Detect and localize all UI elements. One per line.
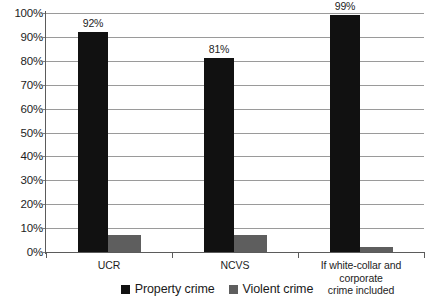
x-axis-tick-mark <box>172 252 173 258</box>
bar-value-label: 92% <box>68 18 118 29</box>
chart-legend: Property crimeViolent crime <box>0 282 434 296</box>
legend-swatch-icon <box>121 285 130 294</box>
x-axis-tick-mark <box>298 252 299 258</box>
y-axis-labels: 100%90%80%70%60%50%40%30%20%10%0% <box>0 0 43 305</box>
bar-violent-crime <box>360 247 393 252</box>
y-axis-tick-label: 0% <box>1 246 43 258</box>
legend-swatch-icon <box>229 285 238 294</box>
legend-item: Violent crime <box>229 282 314 296</box>
bar-violent-crime <box>108 235 141 252</box>
y-axis-tick-label: 60% <box>1 103 43 115</box>
x-axis-category-line: UCR <box>46 259 172 272</box>
y-axis-tick-label: 50% <box>1 127 43 139</box>
y-axis-tick-label: 30% <box>1 174 43 186</box>
bar-violent-crime <box>234 235 267 252</box>
bar-property-crime <box>78 32 108 252</box>
x-axis-line <box>45 252 425 253</box>
gridline <box>46 13 424 14</box>
x-axis-category-line: If white-collar and corporate <box>298 259 424 284</box>
bar-property-crime <box>204 58 234 252</box>
y-axis-tick-label: 10% <box>1 222 43 234</box>
x-axis-category-label: UCR <box>46 259 172 272</box>
bar-value-label: 99% <box>320 1 370 12</box>
x-axis-tick-mark <box>46 252 47 258</box>
legend-item-label: Violent crime <box>243 282 314 296</box>
bar-property-crime <box>330 15 360 252</box>
y-axis-tick-label: 100% <box>1 7 43 19</box>
plot-area: 92%81%99% <box>46 13 424 252</box>
bar-chart: 100%90%80%70%60%50%40%30%20%10%0% 92%81%… <box>0 0 434 305</box>
legend-item-label: Property crime <box>135 282 215 296</box>
legend-item: Property crime <box>121 282 215 296</box>
y-axis-tick-label: 70% <box>1 79 43 91</box>
y-axis-tick-label: 40% <box>1 150 43 162</box>
x-axis-tick-mark <box>424 252 425 258</box>
y-axis-tick-label: 90% <box>1 31 43 43</box>
x-axis-category-label: NCVS <box>172 259 298 272</box>
bar-value-label: 81% <box>194 44 244 55</box>
y-axis-tick-label: 80% <box>1 55 43 67</box>
x-axis-category-line: NCVS <box>172 259 298 272</box>
y-axis-tick-label: 20% <box>1 198 43 210</box>
